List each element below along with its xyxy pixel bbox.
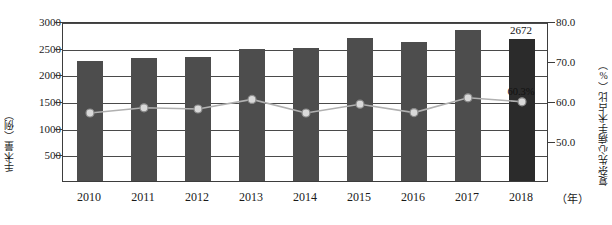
y-axis-right-tick-label: 80.0 [556, 17, 596, 28]
y-axis-right-tick-label: 50.0 [556, 137, 596, 148]
line-marker-2013 [248, 95, 256, 103]
y-axis-left-tick-mark [55, 22, 62, 23]
y-axis-left-tick-mark [55, 155, 62, 156]
x-axis-tick-label-2010: 2010 [77, 190, 101, 205]
y-axis-left-tick-mark [55, 102, 62, 103]
line-marker-2011 [140, 104, 148, 112]
line-marker-2017 [464, 94, 472, 102]
line-marker-2015 [356, 100, 364, 108]
x-axis-tick-label-2012: 2012 [185, 190, 209, 205]
y-axis-left-tick-mark [55, 49, 62, 50]
line-marker-2010 [86, 109, 94, 117]
x-axis-tick-label-2017: 2017 [455, 190, 479, 205]
line-marker-2016 [410, 109, 418, 117]
y-axis-right-tick-mark [548, 22, 555, 23]
y-axis-right-tick-mark [548, 142, 555, 143]
y-axis-right-title: 复杂先心病手术占比（%） [596, 36, 611, 186]
x-axis-tick-label-2013: 2013 [239, 190, 263, 205]
y-axis-left-tick-mark [55, 129, 62, 130]
x-axis-tick-label-2011: 2011 [131, 190, 155, 205]
chart-container: 手术量（例） 复杂先心病手术占比（%） 50010001500200025003… [0, 0, 612, 225]
y-axis-right-tick-label: 60.0 [556, 97, 596, 108]
x-axis-tick-label-2014: 2014 [293, 190, 317, 205]
line-marker-2018 [518, 98, 526, 106]
x-axis-unit-label: （年） [556, 190, 589, 206]
percentage-line-series [63, 23, 549, 183]
y-axis-right-tick-mark [548, 62, 555, 63]
line-value-label-2018: 60.3% [507, 86, 534, 97]
line-marker-2012 [194, 105, 202, 113]
x-axis-tick-label-2015: 2015 [347, 190, 371, 205]
y-axis-right-tick-label: 70.0 [556, 57, 596, 68]
line-marker-2014 [302, 109, 310, 117]
x-axis-tick-label-2016: 2016 [401, 190, 425, 205]
x-axis-tick-label-2018: 2018 [509, 190, 533, 205]
y-axis-left-tick-mark [55, 75, 62, 76]
bar-value-label-2018: 2672 [510, 24, 532, 36]
plot-area [62, 22, 548, 182]
y-axis-right-tick-mark [548, 102, 555, 103]
